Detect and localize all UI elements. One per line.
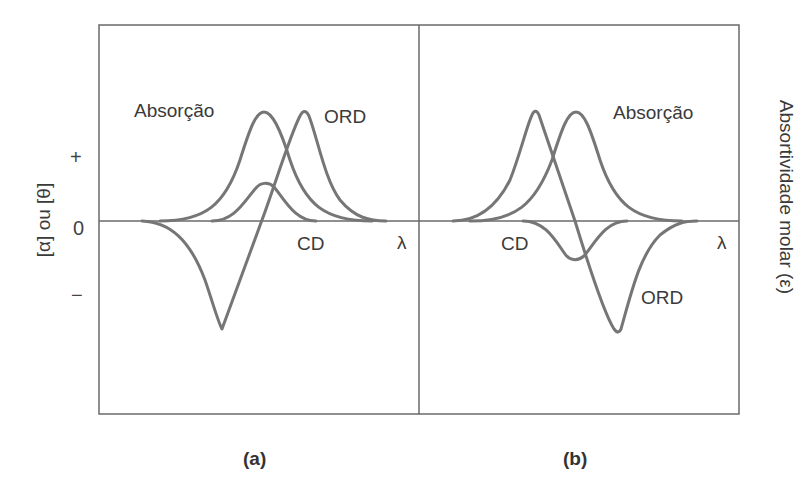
- tick-minus: −: [71, 285, 83, 305]
- lambda-label-a: λ: [397, 233, 407, 252]
- panel-caption-b: (b): [563, 449, 587, 468]
- right-axis-label: Absortividade molar (ε): [777, 100, 796, 294]
- absorption-label-a: Absorção: [134, 101, 214, 120]
- cd-curve-b: [523, 221, 627, 260]
- panel-caption-a: (a): [243, 449, 266, 468]
- tick-plus: +: [70, 147, 82, 167]
- cd-label-b: CD: [501, 234, 528, 253]
- tick-zero: 0: [73, 218, 84, 238]
- absorption-label-b: Absorção: [613, 103, 693, 122]
- left-axis-label: [α] ou [θ]: [34, 183, 53, 257]
- ord-label-a: ORD: [324, 107, 366, 126]
- lambda-label-b: λ: [717, 233, 727, 252]
- cd-label-a: CD: [297, 234, 324, 253]
- absorption-curve-b: [470, 112, 682, 221]
- ord-label-b: ORD: [641, 288, 683, 307]
